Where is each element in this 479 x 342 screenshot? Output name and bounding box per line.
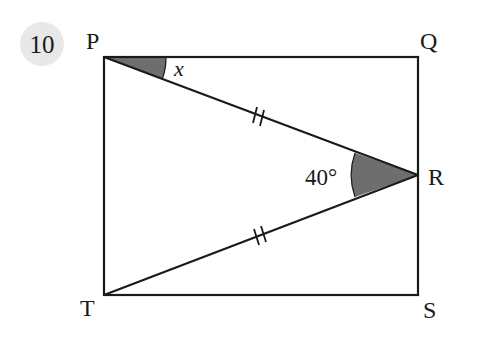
segment-tr	[104, 175, 418, 295]
segment-pr	[104, 57, 418, 175]
vertex-label-p: P	[86, 28, 99, 54]
question-number-badge: 10	[20, 22, 64, 66]
tick-marks-pr	[253, 107, 264, 126]
geometry-diagram: 10 P Q R S T x 40°	[0, 0, 479, 342]
angle-label-x: x	[173, 56, 184, 81]
vertex-label-r: R	[428, 164, 444, 190]
question-number: 10	[30, 31, 55, 58]
vertex-label-t: T	[80, 295, 95, 321]
angle-r-shade	[351, 153, 418, 197]
angle-label-40: 40°	[305, 165, 337, 190]
vertex-label-q: Q	[420, 28, 437, 54]
vertex-label-s: S	[423, 297, 436, 323]
